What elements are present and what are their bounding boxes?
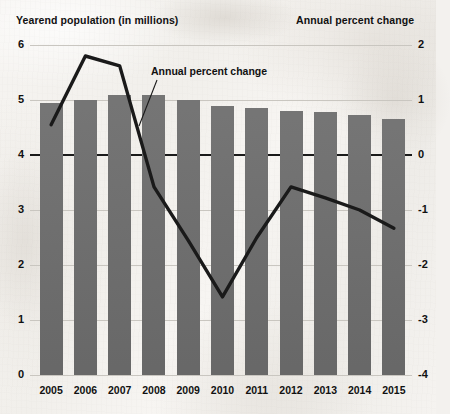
annotation-leader-line <box>139 80 157 126</box>
line-path <box>51 56 394 297</box>
